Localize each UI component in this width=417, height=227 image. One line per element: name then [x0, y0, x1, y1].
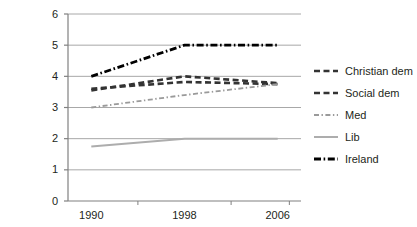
y-axis-label-3: 3 — [38, 102, 58, 113]
legend-swatch-icon — [314, 153, 338, 165]
x-axis-label-1998: 1998 — [163, 210, 207, 221]
legend-swatch-icon — [314, 87, 338, 99]
legend-label: Lib — [345, 132, 360, 143]
y-axis-label-2: 2 — [38, 133, 58, 144]
legend-item-christian-dem[interactable]: Christian dem — [314, 60, 417, 82]
legend-item-lib[interactable]: Lib — [314, 126, 417, 148]
data-series — [91, 45, 277, 146]
y-axis-label-4: 4 — [38, 71, 58, 82]
legend-swatch-icon — [314, 109, 338, 121]
y-axis-label-1: 1 — [38, 164, 58, 175]
x-axis-label-2006: 2006 — [256, 210, 300, 221]
legend-label: Christian dem — [345, 66, 413, 77]
chart-legend: Christian demSocial demMedLibIreland — [314, 60, 417, 170]
legend-item-med[interactable]: Med — [314, 104, 417, 126]
series-line-ireland — [91, 45, 277, 76]
y-axis-label-6: 6 — [38, 9, 58, 20]
legend-swatch-icon — [314, 65, 338, 77]
legend-swatch-icon — [314, 131, 338, 143]
series-line-lib — [91, 139, 277, 147]
legend-label: Med — [345, 110, 366, 121]
series-line-med — [91, 84, 277, 107]
y-axis-label-0: 0 — [38, 196, 58, 207]
legend-item-social-dem[interactable]: Social dem — [314, 82, 417, 104]
legend-item-ireland[interactable]: Ireland — [314, 148, 417, 170]
legend-label: Social dem — [345, 88, 399, 99]
x-axis-label-1990: 1990 — [69, 210, 113, 221]
x-axis-ticks — [138, 201, 289, 205]
line-chart: 6543210 199019982006 Christian demSocial… — [0, 0, 417, 227]
legend-label: Ireland — [345, 154, 379, 165]
y-axis-label-5: 5 — [38, 40, 58, 51]
